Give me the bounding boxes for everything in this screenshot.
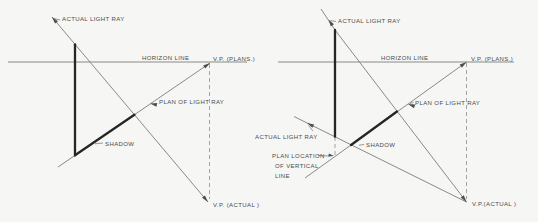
actual-light-ray-left-label: ACTUAL LIGHT RAY <box>255 134 318 140</box>
vp-actual-label: V.P.(ACTUAL ) <box>472 201 516 207</box>
plan-location-label-line3: LINE <box>275 173 290 179</box>
actual-light-ray-label: ACTUAL LIGHT RAY <box>62 16 125 22</box>
actual-light-ray-line <box>321 9 467 202</box>
shadow-label: SHADOW <box>366 142 395 148</box>
shadow-label-leader <box>95 143 103 144</box>
plan-of-light-ray-label: PLAN OF LIGHT RAY <box>159 99 224 105</box>
plan-location-arrowhead-icon <box>328 153 334 157</box>
shadow-label: SHADOW <box>105 141 134 147</box>
horizon-line-label: HORIZON LINE <box>142 55 189 61</box>
light-ray-left-arrowhead-icon <box>306 121 314 128</box>
plan-location-label-line1: PLAN LOCATION <box>272 153 325 159</box>
left-diagram: ACTUAL LIGHT RAY HORIZON LINE V.P. (PLAN… <box>8 16 259 208</box>
vp-plans-label: V.P. (PLANS.) <box>213 56 255 62</box>
shadow-line <box>75 115 134 156</box>
actual-light-ray-base-line <box>294 117 467 203</box>
perspective-shadow-figure: ACTUAL LIGHT RAY HORIZON LINE V.P. (PLAN… <box>0 0 538 222</box>
plan-label-arrowhead-icon <box>150 102 158 107</box>
shadow-line <box>351 112 397 146</box>
figure-svg: ACTUAL LIGHT RAY HORIZON LINE V.P. (PLAN… <box>0 0 538 222</box>
vp-plans-label: V.P. (PLANS.) <box>471 56 513 62</box>
plan-location-label-line2: OF VERTICAL <box>275 163 319 169</box>
light-ray-top-label-leader <box>331 21 337 22</box>
plan-of-light-ray-label: PLAN OF LIGHT RAY <box>415 100 480 106</box>
horizon-line-label: HORIZON LINE <box>381 55 428 61</box>
actual-light-ray-top-label: ACTUAL LIGHT RAY <box>338 18 401 24</box>
shadow-label-leader <box>359 145 364 146</box>
right-diagram: ACTUAL LIGHT RAY HORIZON LINE V.P. (PLAN… <box>255 9 516 207</box>
vp-actual-label: V.P. (ACTUAL ) <box>213 202 259 208</box>
